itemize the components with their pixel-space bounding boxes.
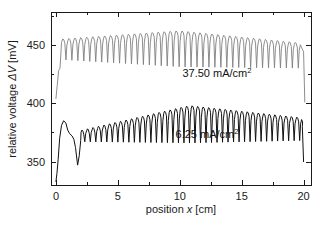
series-annotation-label: 37.50 mA/cm2 [182,66,251,80]
chart-figure: 05101520 350400450 position x [cm] relat… [0,0,329,229]
y-tick-label: 400 [27,97,45,109]
y-tick-label: 450 [27,39,45,51]
series-annotation-label: 6.25 mA/cm2 [176,127,239,141]
plot-frame-rect [51,12,311,185]
x-tick-label: 0 [53,190,59,202]
x-tick-label: 20 [297,190,309,202]
chart-canvas: 05101520 350400450 position x [cm] relat… [0,0,329,229]
x-tick-label: 5 [115,190,121,202]
y-axis-label-group: relative voltage ΔV [mV] [6,40,18,157]
x-tick-label: 15 [236,190,248,202]
x-axis-label: position x [cm] [146,203,216,215]
y-axis-label: relative voltage ΔV [mV] [6,40,18,157]
x-tick-label: 10 [174,190,186,202]
y-tick-label: 350 [27,156,45,168]
y-tick-labels: 350400450 [27,39,45,168]
x-tick-labels: 05101520 [53,190,310,202]
plot-frame [51,12,311,185]
